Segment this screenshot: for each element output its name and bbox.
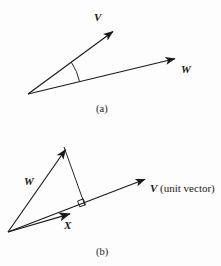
figure-canvas — [0, 0, 221, 266]
right-angle-marker-icon — [78, 199, 86, 207]
panel-a-caption: (a) — [96, 104, 108, 115]
panel-b-vector-x-label: X — [64, 220, 71, 231]
panel-b-vector-v-arrow — [8, 179, 145, 232]
panel-b-vector-v-label: V (unit vector) — [150, 183, 215, 194]
panel-b-vector-v-note: (unit vector) — [157, 182, 214, 194]
panel-a-vector-v-arrow — [28, 32, 113, 95]
panel-b-perpendicular-line — [64, 147, 85, 206]
panel-b-vector-w-label: W — [24, 176, 34, 187]
panel-a-vector-v-label: V — [94, 12, 101, 23]
panel-a-vector-w-label: W — [181, 64, 191, 75]
vector-projection-figure: V W (a) W X V (unit vector) (b) — [0, 0, 221, 266]
panel-b-vector-x-arrow — [8, 214, 70, 232]
panel-a-vector-w-arrow — [28, 59, 175, 94]
panel-a-drawing — [28, 32, 175, 95]
panel-a-angle-arc — [72, 63, 80, 82]
panel-b-drawing — [8, 147, 145, 232]
panel-b-caption: (b) — [96, 247, 108, 258]
panel-b-vector-w-arrow — [8, 150, 66, 233]
